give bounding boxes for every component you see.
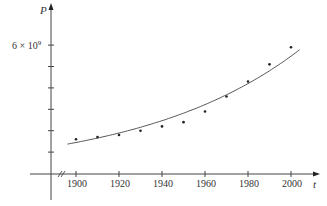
data-point — [225, 95, 228, 98]
data-point — [139, 129, 142, 132]
data-point — [204, 110, 207, 113]
x-tick-label-1960: 1960 — [196, 178, 216, 189]
x-tick-label-1980: 1980 — [239, 178, 259, 189]
x-tick-label-1900: 1900 — [67, 178, 87, 189]
data-point — [268, 63, 271, 66]
data-point — [96, 136, 99, 139]
y-tick-label-exponent: 9 — [38, 39, 42, 47]
data-point — [182, 121, 185, 124]
data-point — [118, 134, 121, 137]
y-tick-label-6e9: 6 × 109 — [12, 39, 41, 51]
data-point — [247, 80, 250, 83]
population-chart — [0, 0, 327, 206]
y-axis-label: P — [40, 4, 47, 16]
data-point — [75, 138, 78, 141]
data-point — [161, 125, 164, 128]
x-tick-label-2000: 2000 — [282, 178, 302, 189]
fit-curve — [67, 50, 299, 144]
y-tick-label-base: 6 × 10 — [12, 40, 38, 51]
x-axis-arrow-icon — [313, 172, 320, 177]
x-tick-label-1940: 1940 — [153, 178, 173, 189]
y-axis-arrow-icon — [49, 3, 54, 10]
data-points — [75, 46, 293, 141]
data-point — [290, 46, 293, 49]
x-tick-label-1920: 1920 — [110, 178, 130, 189]
x-axis-label: t — [313, 178, 316, 190]
